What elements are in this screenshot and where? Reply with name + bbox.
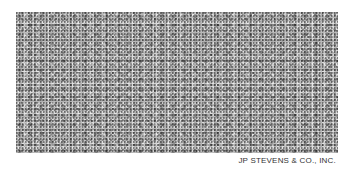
fabric-texture-swatch [16, 12, 338, 153]
manufacturer-caption: JP STEVENS & CO., INC. [238, 156, 336, 165]
